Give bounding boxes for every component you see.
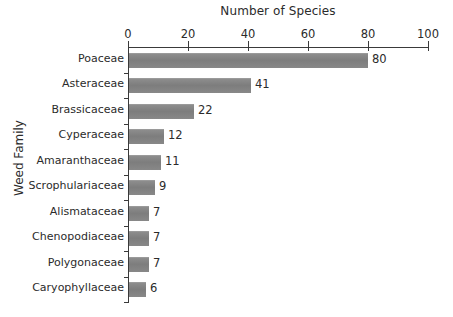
category-label: Scrophulariaceae	[2, 179, 124, 192]
bar-value-label: 12	[168, 128, 183, 142]
bar-value-label: 7	[153, 205, 160, 219]
y-axis-tick	[124, 200, 129, 201]
category-axis-labels: PoaceaeAsteraceaeBrassicaceaeCyperaceaeA…	[0, 47, 124, 302]
x-axis-tick	[428, 41, 429, 51]
bar-value-label: 11	[165, 154, 180, 168]
y-axis-tick	[124, 226, 129, 227]
x-axis-tick	[128, 41, 129, 51]
bar-value-label: 41	[255, 77, 270, 91]
bar[interactable]	[129, 104, 194, 119]
chart-title: Number of Species	[128, 4, 428, 18]
bar[interactable]	[129, 180, 155, 195]
category-label: Poaceae	[2, 52, 124, 65]
bar-value-label: 9	[159, 179, 166, 193]
x-axis-tick-label: 60	[288, 27, 328, 41]
bar[interactable]	[129, 53, 368, 68]
y-axis-tick	[124, 302, 129, 303]
bar[interactable]	[129, 206, 149, 221]
bar[interactable]	[129, 155, 161, 170]
bar-value-label: 6	[150, 281, 157, 295]
bar-value-label: 7	[153, 230, 160, 244]
bar[interactable]	[129, 129, 164, 144]
category-label: Chenopodiaceae	[2, 230, 124, 243]
y-axis-tick	[124, 124, 129, 125]
x-axis-tick	[368, 41, 369, 51]
x-axis-tick-label: 0	[108, 27, 148, 41]
x-axis-tick	[308, 41, 309, 51]
y-axis-tick	[124, 277, 129, 278]
category-label: Brassicaceae	[2, 103, 124, 116]
bar[interactable]	[129, 78, 251, 93]
x-axis-tick-label: 20	[168, 27, 208, 41]
y-axis-tick	[124, 73, 129, 74]
x-axis-tick-label: 100	[408, 27, 448, 41]
x-axis-tick-label: 40	[228, 27, 268, 41]
category-label: Alismataceae	[2, 205, 124, 218]
x-axis-tick	[188, 41, 189, 51]
y-axis-tick	[124, 149, 129, 150]
bar[interactable]	[129, 282, 146, 297]
bar-value-label: 7	[153, 256, 160, 270]
bar-chart: Number of Species Weed Family PoaceaeAst…	[0, 0, 453, 317]
bar-value-label: 80	[372, 52, 387, 66]
y-axis-tick	[124, 98, 129, 99]
x-axis-tick-label: 80	[348, 27, 388, 41]
category-label: Asteraceae	[2, 77, 124, 90]
plot-area: 020406080100804122121197776	[128, 47, 428, 302]
bar[interactable]	[129, 231, 149, 246]
category-label: Caryophyllaceae	[2, 281, 124, 294]
category-label: Polygonaceae	[2, 256, 124, 269]
category-label: Amaranthaceae	[2, 154, 124, 167]
category-label: Cyperaceae	[2, 128, 124, 141]
bar-value-label: 22	[198, 103, 213, 117]
y-axis-tick	[124, 175, 129, 176]
x-axis-line	[128, 47, 428, 48]
bar[interactable]	[129, 257, 149, 272]
x-axis-tick	[248, 41, 249, 51]
y-axis-tick	[124, 251, 129, 252]
